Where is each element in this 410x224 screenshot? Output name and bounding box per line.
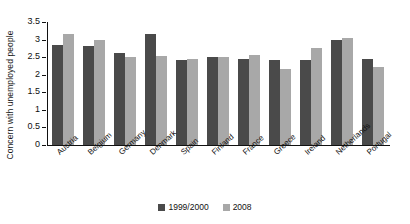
y-axis-tick-label: 0 <box>35 139 40 149</box>
y-axis-tick-label: 2.5 <box>27 51 40 61</box>
bar <box>145 34 156 145</box>
y-axis-tick-label: 3 <box>35 34 40 44</box>
bar <box>83 46 94 145</box>
chart-legend: 1999/20002008 <box>0 202 410 212</box>
y-axis-tick-label: 1.5 <box>27 86 40 96</box>
bar-group <box>145 22 167 145</box>
y-axis-tick-label: 2 <box>35 69 40 79</box>
y-axis-tick-mark <box>42 127 46 128</box>
y-axis-tick: 1.5 <box>0 92 46 93</box>
y-axis-tick: 1 <box>0 110 46 111</box>
y-axis-tick-mark <box>42 22 46 23</box>
y-axis-title-text: Concern with unemployed people <box>5 30 15 159</box>
bar-group <box>269 22 291 145</box>
legend-item: 2008 <box>223 202 252 212</box>
bar <box>156 56 167 145</box>
bar <box>218 57 229 145</box>
bar <box>342 38 353 145</box>
bar <box>63 34 74 145</box>
plot-area <box>48 22 388 145</box>
bar <box>300 60 311 145</box>
bar <box>238 59 249 145</box>
legend-label: 1999/2000 <box>168 202 208 212</box>
bar <box>52 45 63 145</box>
y-axis-tick-label: 1 <box>35 104 40 114</box>
bar <box>311 48 322 145</box>
y-axis-tick-mark <box>42 145 46 146</box>
y-axis-tick-mark <box>42 40 46 41</box>
legend-swatch <box>158 204 165 211</box>
bar-group <box>52 22 74 145</box>
y-axis-tick-mark <box>42 57 46 58</box>
y-axis-tick: 0.5 <box>0 127 46 128</box>
bar-group <box>207 22 229 145</box>
bar-group <box>176 22 198 145</box>
legend-item: 1999/2000 <box>158 202 208 212</box>
y-axis-tick: 2 <box>0 75 46 76</box>
bar <box>125 57 136 145</box>
bar-group <box>238 22 260 145</box>
bar-group <box>331 22 353 145</box>
y-axis-tick-mark <box>42 92 46 93</box>
bar-chart: Concern with unemployed people 3.532.521… <box>0 0 410 224</box>
y-axis-tick-mark <box>42 110 46 111</box>
y-axis-tick-label: 0.5 <box>27 121 40 131</box>
bar <box>207 57 218 145</box>
y-axis-tick: 2.5 <box>0 57 46 58</box>
y-axis-tick: 3.5 <box>0 22 46 23</box>
bar-group <box>114 22 136 145</box>
y-axis-title: Concern with unemployed people <box>0 0 20 190</box>
bar-group <box>300 22 322 145</box>
legend-swatch <box>223 204 230 211</box>
y-axis-tick-mark <box>42 75 46 76</box>
legend-label: 2008 <box>233 202 252 212</box>
bar <box>187 59 198 145</box>
bar <box>249 55 260 145</box>
bar <box>331 40 342 145</box>
bar <box>176 60 187 145</box>
bar <box>269 60 280 145</box>
bar <box>114 53 125 145</box>
y-axis-tick: 0 <box>0 145 46 146</box>
bar-group <box>83 22 105 145</box>
y-axis-tick-label: 3.5 <box>27 16 40 26</box>
bar <box>94 40 105 145</box>
y-axis-tick: 3 <box>0 40 46 41</box>
